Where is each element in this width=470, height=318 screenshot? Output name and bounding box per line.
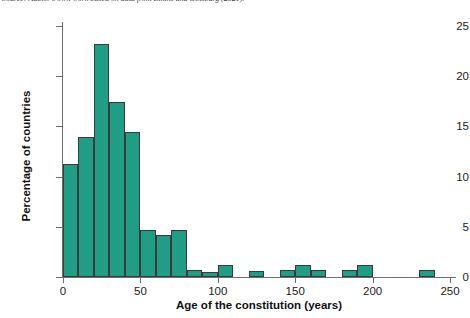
histogram-bar — [249, 271, 264, 277]
y-tick-label: 20 — [417, 70, 469, 82]
x-tick-mark — [140, 277, 141, 283]
y-tick-label: 5 — [417, 221, 469, 233]
histogram-bar — [125, 132, 140, 277]
y-tick-mark — [56, 26, 62, 27]
histogram-bar — [295, 265, 310, 277]
histogram-bar — [218, 265, 233, 277]
x-tick-label: 100 — [198, 285, 238, 297]
histogram-bar — [94, 44, 109, 277]
y-tick-label: 25 — [417, 20, 469, 32]
x-tick-mark — [218, 277, 219, 283]
y-tick-label: 15 — [417, 120, 469, 132]
y-axis-title: Percentage of countries — [20, 56, 32, 256]
x-tick-mark — [450, 277, 451, 283]
histogram-bar — [419, 270, 434, 277]
x-tick-label: 150 — [275, 285, 315, 297]
histogram-bar — [171, 230, 186, 277]
y-tick-mark — [56, 177, 62, 178]
histogram-bar — [357, 265, 372, 277]
y-tick-mark — [56, 126, 62, 127]
x-tick-mark — [63, 277, 64, 283]
x-axis-line — [62, 277, 456, 278]
histogram-bar — [311, 270, 326, 277]
histogram-bar — [109, 102, 124, 277]
x-tick-mark — [295, 277, 296, 283]
x-axis-title: Age of the constitution (years) — [62, 299, 456, 311]
histogram-bar — [187, 270, 202, 277]
y-tick-mark — [56, 277, 62, 278]
histogram-bar — [202, 272, 217, 277]
y-tick-mark — [56, 76, 62, 77]
y-tick-label: 10 — [417, 171, 469, 183]
x-tick-label: 50 — [120, 285, 160, 297]
histogram-bar — [63, 164, 78, 277]
histogram-bar — [156, 235, 171, 277]
histogram-bar — [280, 270, 295, 277]
x-tick-label: 200 — [353, 285, 393, 297]
histogram-bar — [78, 137, 93, 277]
x-tick-label: 0 — [43, 285, 83, 297]
histogram-bar — [140, 230, 155, 277]
y-tick-mark — [56, 227, 62, 228]
x-tick-label: 250 — [430, 285, 470, 297]
x-tick-mark — [373, 277, 374, 283]
histogram-bar — [342, 270, 357, 277]
